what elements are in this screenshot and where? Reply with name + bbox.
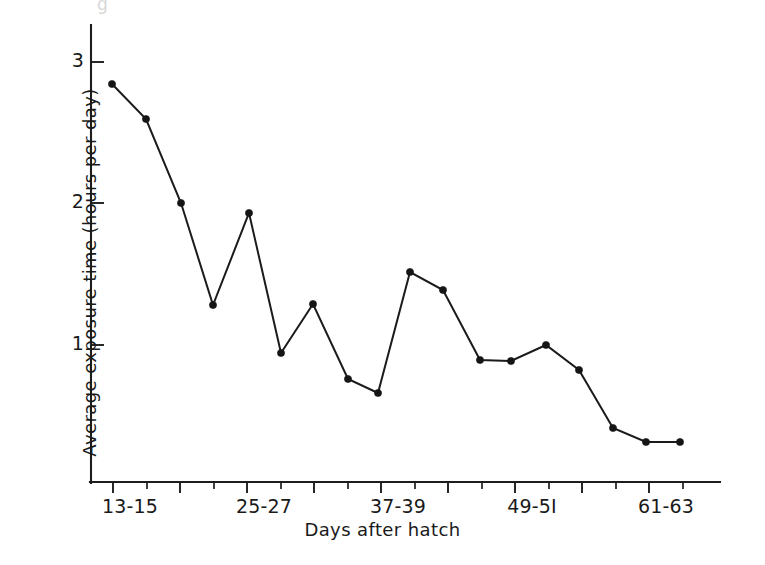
data-point [209,301,216,308]
y-axis-title: Average exposure time (hours per day) [79,63,100,483]
x-tick-label-37-39: 37-39 [370,495,426,517]
data-series-line [112,84,680,442]
x-axis-title: Days after hatch [0,519,765,540]
data-point [374,389,381,396]
data-point [642,438,649,445]
data-point [542,341,549,348]
x-tick-label-49-51: 49-5I [507,495,557,517]
x-tick-label-13-15: 13-15 [102,495,158,517]
data-point [344,375,351,382]
x-tick-label-25-27: 25-27 [236,495,292,517]
data-point [676,438,683,445]
data-point [575,366,582,373]
x-tick-label-61-63: 61-63 [638,495,694,517]
data-point [309,300,316,307]
data-point [609,424,616,431]
data-point [108,80,115,87]
data-point [277,349,284,356]
data-point [507,357,514,364]
figure-container: g [0,0,765,565]
data-point [245,209,252,216]
x-axis-ticks [113,482,683,493]
data-point [439,286,446,293]
data-point [406,268,413,275]
data-point-markers [108,80,683,445]
line-chart-plot [0,0,765,565]
data-point [177,199,184,206]
data-point [142,115,149,122]
data-point [476,356,483,363]
